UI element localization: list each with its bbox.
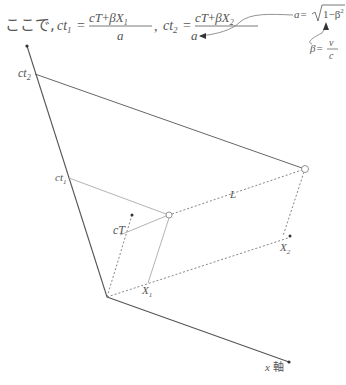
label-x-axis: x軸	[264, 360, 284, 374]
cT-to-event1-line	[120, 216, 166, 235]
svg-text:=: =	[77, 18, 85, 33]
event-1-marker	[166, 212, 172, 218]
event2-to-X2-line	[283, 172, 304, 236]
equation-ct1: ct1 = cT+βX1 a	[57, 10, 152, 43]
spacetime-diagram: ここで, ct1 = cT+βX1 a , ct2 = cT+βX2 a a= …	[0, 0, 346, 385]
svg-text:a: a	[191, 28, 198, 43]
L-line	[172, 170, 302, 214]
equation-ct2: ct2 = cT+βX2 a	[163, 10, 258, 43]
x-axis	[107, 297, 291, 364]
event1-to-X1-line	[148, 218, 169, 283]
ct2-line	[35, 74, 302, 168]
svg-text:1−β2: 1−β2	[323, 7, 344, 20]
svg-text:cT+βX2: cT+βX2	[195, 10, 234, 27]
svg-text:ct1: ct1	[57, 18, 72, 35]
svg-text:v: v	[329, 37, 334, 48]
svg-text:a=: a=	[294, 8, 307, 20]
X-axis-moving	[107, 235, 292, 298]
svg-text:,: ,	[154, 19, 158, 34]
svg-text:ct2: ct2	[163, 18, 178, 35]
label-X1: X1	[141, 284, 152, 299]
label-cT: cT	[113, 223, 126, 237]
label-X2: X2	[279, 241, 291, 256]
svg-text:=: =	[183, 18, 191, 33]
event-2-marker	[302, 166, 309, 173]
ct-axis	[25, 44, 107, 297]
svg-text:a: a	[117, 28, 124, 43]
annotation-beta-definition: β= v c	[309, 22, 338, 61]
svg-text:c: c	[329, 50, 334, 61]
svg-text:β=: β=	[309, 42, 323, 54]
annotation-a-definition: a= 1−β2	[294, 5, 345, 21]
ct1-line	[69, 178, 166, 214]
label-ct1: ct1	[55, 171, 66, 186]
svg-text:cT+βX1: cT+βX1	[89, 10, 128, 27]
label-L: L	[229, 188, 236, 200]
header-equation: ここで, ct1 = cT+βX1 a , ct2 = cT+βX2 a	[5, 10, 258, 43]
header-prefix: ここで,	[5, 16, 55, 34]
label-ct2: ct2	[18, 66, 31, 82]
